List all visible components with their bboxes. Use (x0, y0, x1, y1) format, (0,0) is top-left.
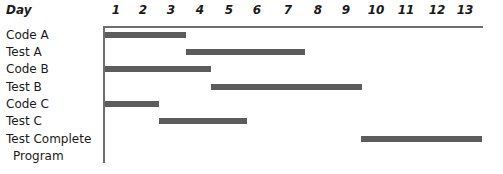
day-tick: 6 (245, 3, 269, 17)
task-label-code-b: Code B (6, 62, 49, 76)
bar-test-complete-program (361, 136, 482, 142)
bar-test-b (211, 84, 362, 90)
x-axis-line (104, 26, 483, 28)
bar-test-c (159, 118, 247, 124)
day-tick: 10 (364, 3, 388, 17)
day-tick: 3 (159, 3, 183, 17)
day-tick: 13 (453, 3, 477, 17)
day-tick: 7 (276, 3, 300, 17)
day-tick: 12 (425, 3, 449, 17)
day-tick: 2 (131, 3, 155, 17)
gantt-chart: Day 1 2 3 4 5 6 7 8 9 10 11 12 13 Code A… (0, 0, 503, 174)
day-tick: 8 (306, 3, 330, 17)
y-axis-line (103, 26, 105, 163)
bar-code-a (105, 32, 186, 38)
task-label-test-complete: Test Complete (6, 132, 91, 146)
day-tick: 9 (334, 3, 358, 17)
task-label-test-c: Test C (6, 114, 42, 128)
day-tick: 4 (188, 3, 212, 17)
task-label-code-a: Code A (6, 28, 49, 42)
day-tick: 11 (394, 3, 418, 17)
bar-code-c (105, 101, 159, 107)
task-label-test-b: Test B (6, 80, 42, 94)
bar-test-a (186, 49, 305, 55)
day-axis-label: Day (6, 3, 32, 17)
task-label-program: Program (13, 149, 64, 163)
day-tick: 1 (104, 3, 128, 17)
bar-code-b (105, 66, 211, 72)
task-label-test-a: Test A (6, 45, 42, 59)
task-label-code-c: Code C (6, 97, 49, 111)
day-tick: 5 (217, 3, 241, 17)
